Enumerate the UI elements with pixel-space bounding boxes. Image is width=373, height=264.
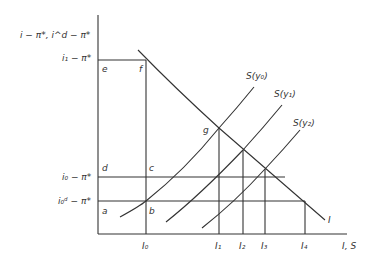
point-d: d — [102, 163, 108, 173]
point-f: f — [139, 64, 144, 74]
saving-curve-y2 — [202, 130, 300, 228]
x-tick-I1: I₁ — [215, 241, 222, 251]
label-saving-y2: S(y₂) — [293, 118, 315, 128]
y-tick-i0d: i₀ᵈ − π* — [58, 196, 91, 206]
saving-curve-y0 — [120, 87, 254, 217]
point-c: c — [149, 163, 154, 173]
label-investment: I — [328, 215, 331, 225]
point-g: g — [203, 125, 209, 135]
x-axis-label: I, S — [342, 241, 356, 251]
y-axis-label: i − π*, i^d − π* — [20, 30, 91, 40]
y-tick-i1: i₁ − π* — [62, 53, 92, 63]
investment-saving-diagram: i − π*, i^d − π* i₁ − π* i₀ − π* i₀ᵈ − π… — [0, 0, 373, 264]
label-saving-y1: S(y₁) — [274, 89, 296, 99]
label-saving-y0: S(y₀) — [246, 71, 268, 81]
point-e: e — [102, 64, 108, 74]
point-a: a — [102, 206, 108, 216]
x-tick-I2: I₂ — [239, 241, 246, 251]
y-tick-i0: i₀ − π* — [62, 172, 92, 182]
x-tick-I3: I₃ — [261, 241, 268, 251]
point-b: b — [149, 206, 155, 216]
investment-curve — [138, 50, 325, 220]
x-tick-I4: I₄ — [301, 241, 308, 251]
x-tick-I0: I₀ — [142, 241, 149, 251]
